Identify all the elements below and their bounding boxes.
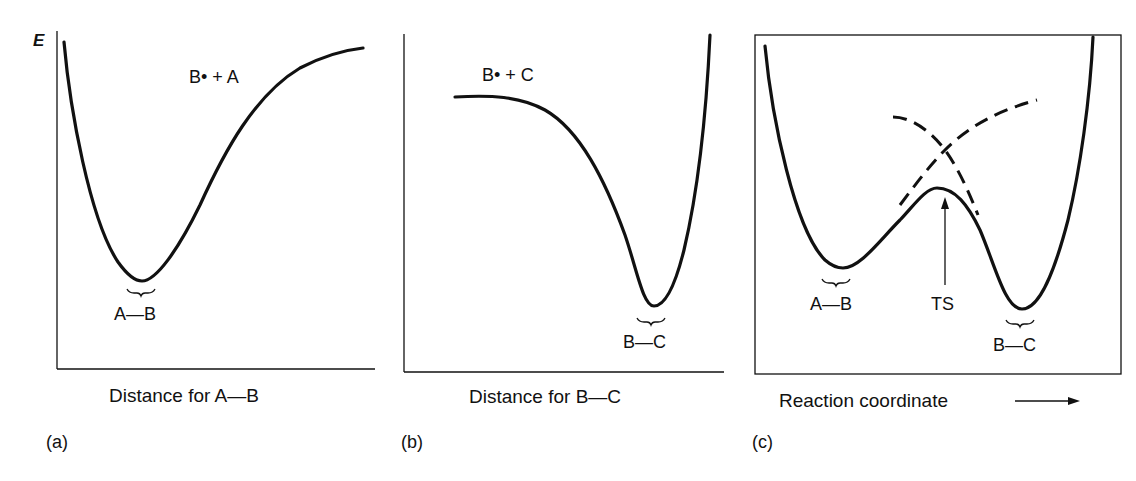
panel-c-minimum-right-label: B—C	[993, 336, 1036, 354]
panel-c-ts-label: TS	[931, 295, 954, 313]
panel-a-xlabel: Distance for A—B	[109, 386, 259, 405]
panel-a-minimum-label: A—B	[114, 305, 156, 323]
panel-b-xlabel: Distance for B—C	[469, 387, 621, 406]
panel-b-species-label: B• + C	[482, 66, 534, 84]
panel-c-dashed-curve-product	[900, 100, 1037, 205]
panel-c-brace-right-icon	[1006, 320, 1034, 327]
energy-axis-label: E	[33, 32, 44, 49]
panel-b-axes	[404, 34, 724, 372]
panel-a-species-label: B• + A	[189, 68, 239, 86]
panel-c-xlabel: Reaction coordinate	[779, 391, 948, 410]
reaction-coordinate-arrow-icon	[1015, 397, 1080, 405]
panel-a-label: (a)	[46, 433, 68, 451]
panel-a-brace-icon	[127, 289, 155, 296]
ts-arrow-icon	[941, 197, 949, 285]
panel-c-brace-left-icon	[822, 279, 850, 286]
panel-b-label: (b)	[401, 433, 423, 451]
panel-b-minimum-label: B—C	[623, 333, 666, 351]
panel-c-frame	[755, 35, 1121, 374]
panel-c-reaction-profile	[765, 37, 1093, 309]
panel-c-label: (c)	[752, 433, 773, 451]
panel-b-brace-icon	[637, 318, 665, 325]
panel-c-minimum-left-label: A—B	[810, 295, 852, 313]
potential-energy-figure	[0, 0, 1136, 481]
